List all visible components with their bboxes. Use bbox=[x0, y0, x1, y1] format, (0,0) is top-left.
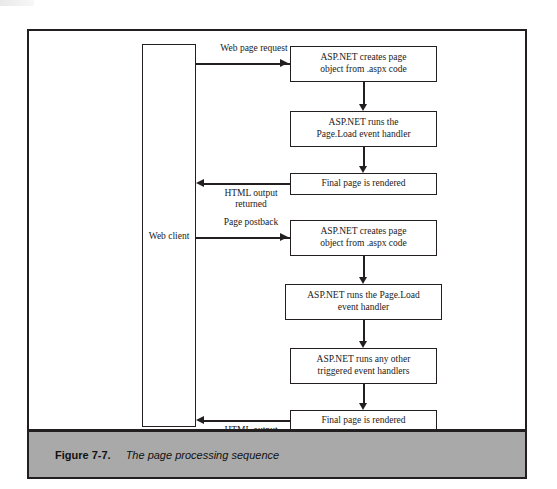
process-box-label: ASP.NET runs the Page.Load event handler bbox=[316, 117, 410, 140]
figure-caption-number: Figure 7-7. bbox=[55, 449, 111, 461]
process-box-label: ASP.NET creates page object from .aspx c… bbox=[320, 52, 407, 75]
process-box-label: Final page is rendered bbox=[321, 178, 405, 190]
edge-label-html-output-returned-1: HTML output returned bbox=[201, 188, 301, 211]
edge-line-html-output-returned-2 bbox=[204, 420, 290, 422]
arrow-head-html-output-returned-2 bbox=[196, 416, 204, 424]
arrow-head-html-output-returned-1 bbox=[196, 179, 204, 187]
process-box-create-page-object-2: ASP.NET creates page object from .aspx c… bbox=[290, 220, 437, 256]
arrow-head-box6-box7 bbox=[359, 403, 367, 410]
arrow-head-web-page-request bbox=[280, 59, 288, 67]
arrow-head-box5-box6 bbox=[359, 341, 367, 348]
figure-caption-band: Figure 7-7. The page processing sequence bbox=[29, 429, 525, 477]
scan-artifact bbox=[0, 0, 34, 6]
edge-label-page-postback: Page postback bbox=[201, 217, 301, 228]
arrow-head-page-postback bbox=[280, 233, 288, 241]
arrow-head-box1-box2 bbox=[359, 104, 367, 111]
process-box-label: Final page is rendered bbox=[321, 415, 405, 427]
process-box-label: ASP.NET creates page object from .aspx c… bbox=[320, 226, 407, 249]
process-box-create-page-object-1: ASP.NET creates page object from .aspx c… bbox=[290, 46, 437, 82]
edge-line-page-postback bbox=[196, 237, 291, 239]
web-client-lane: Web client bbox=[142, 44, 196, 427]
edge-line-web-page-request bbox=[196, 63, 291, 65]
web-client-label: Web client bbox=[143, 230, 195, 240]
edge-line-html-output-returned-1 bbox=[204, 183, 290, 185]
arrow-head-box4-box5 bbox=[359, 277, 367, 284]
arrow-head-box2-box3 bbox=[359, 166, 367, 173]
process-box-page-load-handler-1: ASP.NET runs the Page.Load event handler bbox=[290, 111, 437, 147]
figure-caption-text: The page processing sequence bbox=[126, 449, 280, 461]
flowchart-diagram: Web client Web page request ASP.NET crea… bbox=[29, 31, 525, 477]
process-box-page-load-handler-2: ASP.NET runs the Page.Load event handler bbox=[285, 284, 442, 320]
process-box-label: ASP.NET runs any other triggered event h… bbox=[317, 354, 411, 377]
process-box-other-event-handlers: ASP.NET runs any other triggered event h… bbox=[290, 348, 437, 384]
process-box-label: ASP.NET runs the Page.Load event handler bbox=[307, 290, 420, 313]
figure-frame: Web client Web page request ASP.NET crea… bbox=[27, 29, 527, 479]
process-box-final-page-rendered-1: Final page is rendered bbox=[290, 173, 437, 195]
